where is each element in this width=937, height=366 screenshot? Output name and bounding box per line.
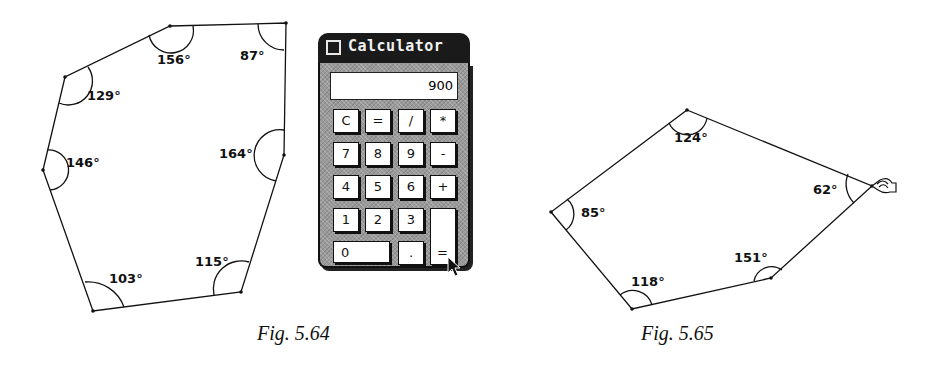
calculator-title-bar[interactable]: Calculator xyxy=(318,33,470,63)
calculator-title: Calculator xyxy=(348,37,443,55)
key-decimal[interactable]: . xyxy=(398,241,424,265)
key-equals-top[interactable]: = xyxy=(365,109,391,133)
key-2[interactable]: 2 xyxy=(365,208,391,232)
key-6[interactable]: 6 xyxy=(398,175,424,199)
angle-label: 124° xyxy=(674,130,708,145)
key-1[interactable]: 1 xyxy=(333,208,359,232)
angle-label: 115° xyxy=(195,254,229,269)
calculator-window: Calculator 900 C = / * 7 8 9 - 4 5 6 + 1… xyxy=(318,33,470,270)
angle-label: 87° xyxy=(240,48,265,63)
key-plus[interactable]: + xyxy=(430,175,456,199)
key-8[interactable]: 8 xyxy=(365,142,391,166)
angle-label: 146° xyxy=(66,155,100,170)
arrow-cursor-icon xyxy=(447,256,461,278)
close-box-icon[interactable] xyxy=(326,40,341,55)
figure-caption-5-64: Fig. 5.64 xyxy=(257,322,330,345)
key-3[interactable]: 3 xyxy=(398,208,424,232)
key-multiply[interactable]: * xyxy=(430,109,456,133)
calculator-display: 900 xyxy=(330,72,458,100)
angle-label: 103° xyxy=(109,271,143,286)
key-9[interactable]: 9 xyxy=(398,142,424,166)
key-5[interactable]: 5 xyxy=(365,175,391,199)
figure-caption-5-65: Fig. 5.65 xyxy=(641,322,714,345)
angle-label: 85° xyxy=(581,205,606,220)
calculator-body: 900 C = / * 7 8 9 - 4 5 6 + 1 2 3 = 0 . xyxy=(318,63,470,268)
angle-label: 156° xyxy=(157,52,191,67)
hand-cursor-icon xyxy=(872,179,896,193)
angle-label: 151° xyxy=(734,250,768,265)
angle-label: 62° xyxy=(813,182,838,197)
key-4[interactable]: 4 xyxy=(333,175,359,199)
key-0[interactable]: 0 xyxy=(333,241,390,263)
angle-label: 129° xyxy=(87,88,121,103)
angle-label: 118° xyxy=(631,274,665,289)
key-clear[interactable]: C xyxy=(333,109,359,133)
key-7[interactable]: 7 xyxy=(333,142,359,166)
key-divide[interactable]: / xyxy=(398,109,424,133)
angle-label: 164° xyxy=(219,146,253,161)
key-minus[interactable]: - xyxy=(430,142,456,166)
